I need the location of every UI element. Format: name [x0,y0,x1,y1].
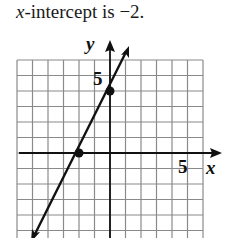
x-intercept-point [75,149,84,158]
y-tick-label: 5 [93,68,103,89]
x-axis-label: x [205,157,216,178]
coordinate-graph: y 5 5 x [0,0,236,238]
y-axis-label: y [84,33,95,54]
y-intercept-point [106,87,115,96]
x-tick-label: 5 [178,156,188,177]
